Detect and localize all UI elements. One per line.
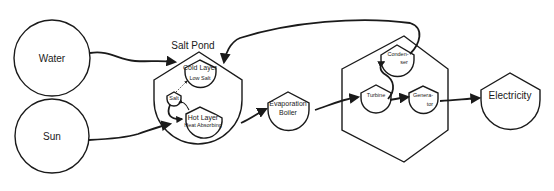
sun-label: Sun [43,131,61,142]
evaporation-boiler-label-2: Boiler [279,109,298,116]
evaporation-boiler-label-1: Evaporation [269,100,306,108]
cold-layer-label: Cold Layer [183,64,218,72]
node-electricity: Electricity [481,73,540,130]
salt-label: Salt [169,95,179,101]
condenser-label-2: ser [400,59,408,65]
condenser-label-1: Conden- [387,51,408,57]
turbine-label: Turbine [367,92,385,98]
node-evaporation-boiler: Evaporation Boiler [268,92,309,130]
node-salt-pond: Salt Pond Cold Layer Low Salt Salt Hot L… [154,40,242,144]
node-water: Water [14,20,90,96]
node-sun: Sun [15,99,89,173]
water-label: Water [39,53,66,64]
edge-sun-to-salt-pond [89,124,170,140]
generator-label-2: tor [427,101,434,107]
generator-label-1: Genera- [413,92,433,98]
salt-pond-label: Salt Pond [171,40,214,51]
hot-layer-sublabel: Heat Absorbing [184,122,222,128]
cold-layer-sublabel: Low Salt [189,75,211,81]
electricity-shape [481,73,540,130]
edge-salt-pond-to-boiler [241,109,266,123]
hot-layer-label: Hot Layer [188,114,219,122]
edge-water-to-salt-pond [90,52,175,62]
solar-pond-diagram: Water Sun Salt Pond Cold Layer Low Salt … [0,0,554,191]
node-salt: Salt [167,92,181,106]
electricity-label: Electricity [489,90,532,101]
